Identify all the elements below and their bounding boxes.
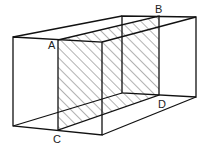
cuboid-diagram: A B C D <box>0 0 206 147</box>
label-a: A <box>48 39 56 51</box>
label-d: D <box>158 98 166 110</box>
label-c: C <box>53 133 61 145</box>
label-b: B <box>155 3 162 15</box>
